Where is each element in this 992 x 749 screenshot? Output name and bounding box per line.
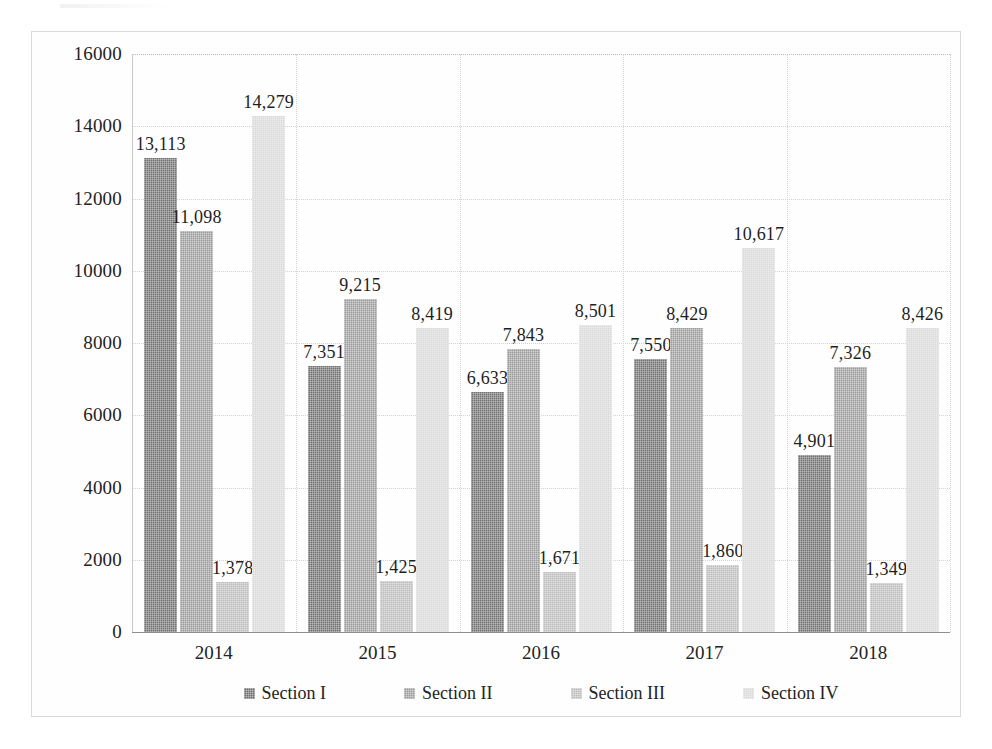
x-axis-tick-label: 2014 [132,636,296,670]
bar-section-i-2016[interactable]: 6,633 [471,392,504,632]
bar-section-iv-2015[interactable]: 8,419 [416,328,449,632]
bar-slot: 9,215 [344,54,377,632]
bar-section-i-2017[interactable]: 7,550 [634,359,667,632]
bars: 6,6337,8431,6718,501 [460,54,623,632]
y-axis-tick-label: 12000 [74,188,123,210]
bar-slot: 6,633 [471,54,504,632]
legend-item-section-iv[interactable]: Section IV [743,683,838,704]
legend-item-section-ii[interactable]: Section II [404,683,492,704]
bar-slot: 14,279 [252,54,285,632]
bar-value-label: 13,113 [136,134,186,155]
bar-section-i-2018[interactable]: 4,901 [798,455,831,632]
y-axis: 1600014000120001000080006000400020000 [32,32,132,632]
y-axis-tick-label: 8000 [83,332,122,354]
bar-value-label: 7,326 [830,343,872,364]
chart-legend: Section ISection IISection IIISection IV [132,676,950,710]
bars: 13,11311,0981,37814,279 [133,54,296,632]
bar-slot: 8,426 [906,54,939,632]
legend-swatch-icon [404,688,415,699]
bar-slot: 1,425 [380,54,413,632]
bar-section-ii-2018[interactable]: 7,326 [834,367,867,632]
bar-slot: 8,419 [416,54,449,632]
bars: 7,3519,2151,4258,419 [296,54,459,632]
y-axis-tick-label: 14000 [74,115,123,137]
bars: 4,9017,3261,3498,426 [787,54,950,632]
bar-value-label: 1,860 [702,541,744,562]
legend-item-section-i[interactable]: Section I [244,683,327,704]
bar-value-label: 8,501 [575,301,617,322]
x-axis: 20142015201620172018 [132,636,950,670]
bar-slot: 4,901 [798,54,831,632]
bar-slot: 8,429 [670,54,703,632]
legend-label: Section II [422,683,492,704]
bar-section-ii-2015[interactable]: 9,215 [344,299,377,632]
bar-value-label: 4,901 [794,431,836,452]
bar-slot: 7,843 [507,54,540,632]
x-axis-tick-label: 2017 [623,636,787,670]
bar-slot: 8,501 [579,54,612,632]
legend-item-section-iii[interactable]: Section III [571,683,665,704]
scan-artifact [60,4,170,8]
y-axis-tick-label: 2000 [83,549,122,571]
legend-swatch-icon [743,688,754,699]
bar-section-iv-2014[interactable]: 14,279 [252,116,285,632]
bar-value-label: 14,279 [243,92,294,113]
bar-slot: 7,326 [834,54,867,632]
x-axis-tick-label: 2016 [459,636,623,670]
bar-value-label: 1,425 [375,557,417,578]
bar-section-ii-2014[interactable]: 11,098 [180,231,213,632]
bar-value-label: 1,671 [539,548,581,569]
bar-value-label: 6,633 [467,368,509,389]
bar-section-iv-2017[interactable]: 10,617 [742,248,775,632]
x-axis-tick-label: 2018 [786,636,950,670]
chart-body: 1600014000120001000080006000400020000 13… [32,32,962,718]
bar-value-label: 11,098 [172,207,222,228]
bar-slot: 7,351 [308,54,341,632]
bar-slot: 10,617 [742,54,775,632]
bar-group-2017: 7,5508,4291,86010,617 [623,54,786,632]
bar-section-iv-2018[interactable]: 8,426 [906,328,939,632]
bar-slot: 13,113 [144,54,177,632]
legend-label: Section III [589,683,665,704]
plot-area: 13,11311,0981,37814,2797,3519,2151,4258,… [132,54,950,632]
y-axis-tick-label: 10000 [74,260,123,282]
legend-label: Section IV [761,683,838,704]
bar-value-label: 7,351 [303,342,345,363]
bar-section-iii-2014[interactable]: 1,378 [216,582,249,632]
bar-value-label: 10,617 [734,224,785,245]
bar-section-iii-2016[interactable]: 1,671 [543,572,576,632]
legend-swatch-icon [244,688,255,699]
bar-slot: 7,550 [634,54,667,632]
bar-value-label: 1,378 [212,558,254,579]
y-axis-tick-label: 4000 [83,477,122,499]
x-axis-tick-label: 2015 [296,636,460,670]
x-axis-line [132,632,950,633]
bar-section-iii-2017[interactable]: 1,860 [706,565,739,632]
chart-figure-frame: 1600014000120001000080006000400020000 13… [31,31,961,717]
bar-section-iii-2015[interactable]: 1,425 [380,581,413,632]
bar-value-label: 7,843 [503,325,545,346]
bars: 7,5508,4291,86010,617 [623,54,786,632]
bar-section-i-2015[interactable]: 7,351 [308,366,341,632]
category-separator [950,54,951,632]
bar-section-iii-2018[interactable]: 1,349 [870,583,903,632]
bar-group-2014: 13,11311,0981,37814,279 [133,54,296,632]
legend-swatch-icon [571,688,582,699]
y-axis-tick-label: 16000 [74,43,123,65]
bar-section-ii-2017[interactable]: 8,429 [670,328,703,632]
bar-value-label: 8,419 [411,304,453,325]
bar-group-2016: 6,6337,8431,6718,501 [460,54,623,632]
bar-slot: 1,378 [216,54,249,632]
bar-group-2015: 7,3519,2151,4258,419 [296,54,459,632]
y-axis-tick-label: 6000 [83,404,122,426]
y-axis-tick-label: 0 [112,621,122,643]
bar-section-i-2014[interactable]: 13,113 [144,158,177,632]
bar-slot: 1,860 [706,54,739,632]
bar-value-label: 8,429 [666,304,708,325]
bar-group-2018: 4,9017,3261,3498,426 [787,54,950,632]
bar-section-ii-2016[interactable]: 7,843 [507,349,540,632]
bar-slot: 1,671 [543,54,576,632]
bar-value-label: 9,215 [339,275,381,296]
bar-section-iv-2016[interactable]: 8,501 [579,325,612,632]
bar-groups: 13,11311,0981,37814,2797,3519,2151,4258,… [133,54,950,632]
